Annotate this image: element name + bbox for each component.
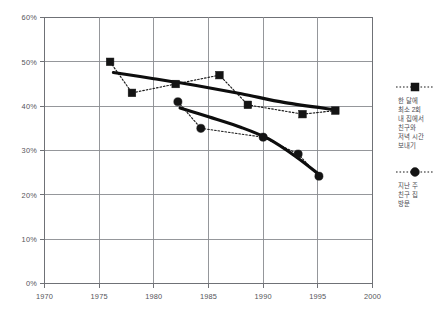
y-tick-label: 50% (22, 58, 38, 67)
x-tick-label: 1995 (309, 292, 326, 301)
x-tick-label: 1990 (255, 292, 272, 301)
data-point-circle (197, 124, 205, 132)
legend-label-line: 친구와 (398, 123, 416, 132)
legend-label-line: 최소 2회 (398, 105, 421, 114)
legend-label-line: 친구 집 (398, 190, 418, 199)
legend-label-line: 보내기 (398, 141, 416, 150)
data-point-square (216, 71, 224, 79)
data-point-square (332, 107, 340, 115)
data-point-square (172, 80, 180, 88)
x-tick-label: 2000 (364, 292, 381, 301)
x-axis-labels: 1970 1975 1980 1985 1990 1995 2000 (36, 292, 381, 301)
y-tick-label: 60% (22, 13, 38, 22)
legend-label-line: 한 달에 (398, 96, 418, 105)
legend-marker-square (411, 83, 419, 91)
y-tick-label: 20% (22, 191, 38, 200)
data-point-square (106, 58, 114, 66)
data-point-square (299, 110, 307, 118)
data-point-circle (174, 98, 182, 106)
data-point-square (244, 101, 252, 109)
chart-figure: 60% 50% 40% 30% 20% 10% 0% 1970 1975 198… (0, 0, 446, 314)
line-chart: 60% 50% 40% 30% 20% 10% 0% 1970 1975 198… (0, 0, 446, 314)
plot-background (44, 17, 372, 283)
legend-label-line: 저녁 시간 (398, 132, 424, 141)
data-point-circle (315, 172, 323, 180)
x-tick-label: 1980 (145, 292, 162, 301)
y-tick-label: 0% (26, 279, 37, 288)
legend-entry-dinner-with-friends[interactable]: 한 달에 최소 2회 내 집에서 친구와 저녁 시간 보내기 (396, 83, 434, 150)
y-tick-label: 40% (22, 102, 38, 111)
legend-label-line: 방문 (398, 199, 410, 207)
legend-label-line: 지난 주 (398, 181, 418, 190)
y-axis-labels: 60% 50% 40% 30% 20% 10% 0% (22, 13, 38, 288)
x-tick-label: 1975 (91, 292, 108, 301)
legend-marker-circle (411, 168, 420, 177)
legend-label-line: 내 집에서 (398, 114, 424, 123)
legend-entry-visited-friend-home[interactable]: 지난 주 친구 집 방문 (396, 168, 434, 207)
data-point-circle (294, 150, 302, 158)
x-tick-label: 1970 (36, 292, 53, 301)
y-tick-label: 30% (22, 146, 38, 155)
data-point-circle (259, 133, 267, 141)
x-tick-label: 1985 (200, 292, 217, 301)
data-point-square (128, 89, 136, 97)
y-tick-label: 10% (22, 235, 38, 244)
chart-legend: 한 달에 최소 2회 내 집에서 친구와 저녁 시간 보내기 지난 주 친구 집… (396, 83, 434, 207)
